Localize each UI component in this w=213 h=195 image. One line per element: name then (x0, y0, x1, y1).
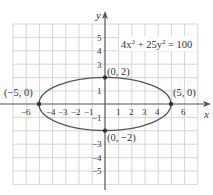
svg-text:4: 4 (155, 107, 160, 117)
ellipse-graph: y x 4x2 + 25y2 = 100 (0, 2) (0, −2) (−5,… (0, 0, 213, 195)
point-top-label: (0, 2) (107, 66, 130, 78)
point-right (169, 102, 173, 106)
svg-text:−3: −3 (58, 107, 68, 117)
svg-text:2: 2 (129, 107, 134, 117)
svg-text:−4: −4 (46, 107, 56, 117)
svg-text:−6: −6 (21, 107, 31, 117)
svg-text:6: 6 (181, 107, 186, 117)
svg-text:3: 3 (142, 107, 147, 117)
y-axis-label: y (95, 9, 101, 21)
x-axis-label: x (203, 108, 209, 120)
svg-text:−5: −5 (92, 166, 102, 176)
svg-text:5: 5 (97, 33, 102, 43)
svg-text:−3: −3 (92, 139, 102, 149)
point-right-label: (5, 0) (173, 87, 196, 99)
svg-text:−1: −1 (92, 113, 102, 123)
point-left-label: (−5, 0) (4, 87, 33, 99)
svg-text:−4: −4 (92, 153, 102, 163)
svg-text:1: 1 (97, 86, 102, 96)
point-bottom-label: (0, −2) (107, 132, 136, 144)
svg-text:1: 1 (116, 107, 121, 117)
point-left (37, 102, 41, 106)
svg-text:4: 4 (97, 46, 102, 56)
x-tick-labels: −6 −4 −3 −2 −1 1 2 3 4 6 (21, 107, 186, 117)
svg-text:−2: −2 (71, 107, 81, 117)
svg-text:3: 3 (97, 60, 102, 70)
